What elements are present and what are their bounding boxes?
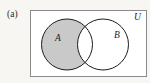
- venn-diagram-figure: (a) A B U: [0, 0, 150, 83]
- set-label-b: B: [114, 30, 120, 40]
- set-label-a: A: [54, 33, 61, 43]
- venn-diagram-canvas: A B U: [0, 0, 150, 83]
- shaded-region-a-minus-b: [0, 0, 150, 83]
- universal-set-label: U: [134, 12, 142, 22]
